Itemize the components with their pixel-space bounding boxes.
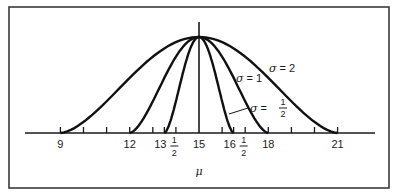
svg-text:1: 1 bbox=[241, 135, 246, 145]
x-tick-label-fraction: 1312 bbox=[154, 135, 178, 158]
svg-text:1: 1 bbox=[172, 135, 177, 145]
x-tick-label: 21 bbox=[331, 138, 343, 150]
x-tick-label: 18 bbox=[262, 138, 274, 150]
x-axis-label: μ bbox=[195, 165, 202, 178]
svg-text:σ = 2: σ = 2 bbox=[269, 62, 295, 75]
annotation-leader-line bbox=[229, 108, 248, 114]
x-tick-label-fraction: 1612 bbox=[224, 135, 248, 158]
svg-text:σ =: σ = bbox=[250, 102, 267, 115]
svg-text:13: 13 bbox=[154, 138, 166, 150]
annotation-sigma-1: σ = 1 bbox=[236, 72, 262, 85]
x-tick-label: 12 bbox=[124, 138, 136, 150]
svg-text:σ = 1: σ = 1 bbox=[236, 72, 262, 85]
svg-text:2: 2 bbox=[280, 109, 285, 119]
x-axis-tick-labels: 91213121516121821 bbox=[57, 135, 343, 158]
svg-text:1: 1 bbox=[280, 97, 285, 107]
chart: 91213121516121821 μ σ = 2 σ = 1 σ = 1 2 bbox=[0, 0, 396, 195]
svg-text:16: 16 bbox=[224, 138, 236, 150]
annotation-sigma-half: σ = 1 2 bbox=[229, 97, 287, 119]
svg-text:2: 2 bbox=[172, 148, 177, 158]
x-tick-label: 15 bbox=[193, 138, 205, 150]
annotation-sigma-2: σ = 2 bbox=[269, 62, 295, 75]
x-tick-label: 9 bbox=[57, 138, 63, 150]
svg-text:2: 2 bbox=[241, 148, 246, 158]
